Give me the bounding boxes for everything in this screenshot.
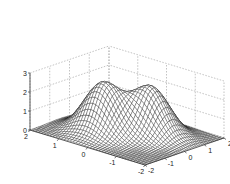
x-tick-label: -1 [168, 160, 174, 167]
x-tick-label: 2 [228, 140, 230, 147]
y-tick-mark [144, 165, 146, 167]
x-tick-mark [145, 165, 147, 167]
y-tick-label: 2 [24, 133, 28, 140]
x-tick-mark [185, 152, 187, 154]
x-tick-label: 0 [189, 154, 193, 161]
z-tick-label: 1 [23, 108, 27, 115]
surface-plot: 0 1 2 3 2 1 0 -1 -2 -2 -1 0 1 2 [0, 0, 230, 184]
y-tick-mark [57, 139, 59, 141]
x-tick-mark [204, 145, 206, 147]
x-tick-label: 1 [208, 147, 212, 154]
x-tick-mark [224, 138, 226, 140]
z-tick-label: 3 [23, 70, 27, 77]
surface-mesh [30, 81, 224, 165]
z-tick-label: 2 [23, 89, 27, 96]
y-tick-label: 0 [82, 151, 86, 158]
x-tick-label: -2 [148, 167, 154, 174]
grid-line [30, 46, 109, 73]
y-tick-label: 1 [53, 142, 57, 149]
x-tick-mark [165, 158, 167, 160]
y-tick-label: -1 [109, 159, 115, 166]
y-tick-label: -2 [138, 168, 144, 175]
y-tick-mark [86, 148, 88, 150]
grid-line [109, 46, 224, 81]
y-tick-mark [115, 156, 117, 158]
z-ticks: 0 1 2 3 [23, 70, 27, 134]
